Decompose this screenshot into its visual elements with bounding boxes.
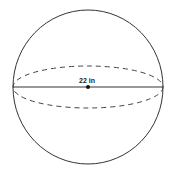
center-point xyxy=(86,85,90,89)
diameter-label: 22 in xyxy=(79,77,95,84)
sphere-diagram: 22 in xyxy=(0,0,181,169)
